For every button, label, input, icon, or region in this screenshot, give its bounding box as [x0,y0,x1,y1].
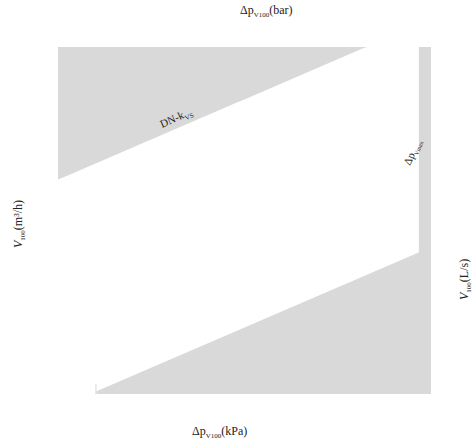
shade-lower-right [97,247,431,394]
left-axis-title: V100(m³/h) [11,200,27,248]
right-axis-title: V100(L/s) [457,259,473,300]
shade-dp-max-band [419,47,431,394]
shade-upper-left [58,47,367,180]
bottom-axis-title: ΔpV100(kPa) [192,424,247,440]
shaded-regions [58,47,431,394]
top-axis-title: ΔpV100(bar) [240,3,293,19]
shade-bottom-strip [95,384,96,394]
flow-nomogram-chart: ΔpV100(bar) ΔpV100(kPa) V100(m³/h) V100(… [0,0,476,445]
